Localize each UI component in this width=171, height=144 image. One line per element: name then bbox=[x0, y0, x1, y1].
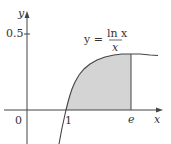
x-axis-arrow-icon bbox=[156, 108, 163, 113]
equation-lhs: y = bbox=[84, 34, 103, 45]
x-axis-label: x bbox=[154, 114, 160, 125]
shaded-region bbox=[66, 54, 131, 110]
x-tick-e-label: e bbox=[128, 114, 135, 125]
x-tick-1-label: 1 bbox=[65, 115, 72, 126]
y-axis-arrow-icon bbox=[25, 11, 30, 18]
equation-numerator: ln x bbox=[107, 28, 127, 39]
y-tick-label: 0.5 bbox=[6, 28, 24, 39]
origin-label: 0 bbox=[15, 115, 22, 126]
y-axis-label: y bbox=[18, 8, 24, 19]
equation-denominator: x bbox=[112, 42, 118, 53]
plot bbox=[0, 0, 171, 144]
